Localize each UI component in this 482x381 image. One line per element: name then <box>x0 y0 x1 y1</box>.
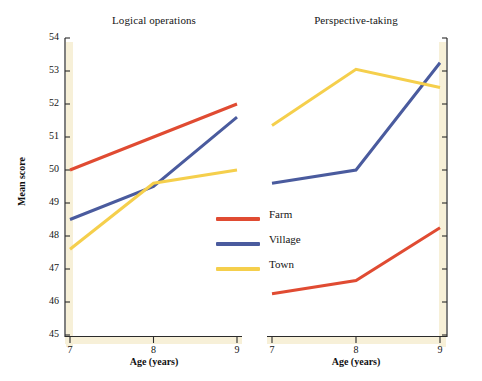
legend-item-village[interactable]: Village <box>216 233 328 258</box>
legend-swatch-village <box>216 242 260 246</box>
legend-item-town[interactable]: Town <box>216 258 328 283</box>
x-tick-label-0-7: 7 <box>62 344 78 355</box>
legend-item-farm[interactable]: Farm <box>216 208 328 233</box>
plot-canvas <box>0 0 482 381</box>
figure-panel-chart: Logical operations Perspective-taking Me… <box>0 0 482 381</box>
y-tick-label-52: 52 <box>37 97 59 108</box>
x-tick-label-0-9: 9 <box>229 344 245 355</box>
x-tick-label-1-9: 9 <box>432 344 448 355</box>
x-tick-label-1-7: 7 <box>264 344 280 355</box>
legend-label-town: Town <box>269 258 294 270</box>
y-tick-label-53: 53 <box>37 64 59 75</box>
series-line-village-panel-0 <box>70 117 237 219</box>
y-tick-label-54: 54 <box>37 31 59 42</box>
legend-swatch-farm <box>216 217 260 221</box>
chart-legend: FarmVillageTown <box>216 208 328 283</box>
series-line-town-panel-1 <box>272 69 440 125</box>
y-tick-label-51: 51 <box>37 130 59 141</box>
x-tick-label-0-8: 8 <box>146 344 162 355</box>
x-tick-label-1-8: 8 <box>348 344 364 355</box>
y-tick-label-47: 47 <box>37 262 59 273</box>
y-tick-label-46: 46 <box>37 295 59 306</box>
y-tick-label-48: 48 <box>37 229 59 240</box>
legend-swatch-town <box>216 267 260 271</box>
y-axis-shadow-band-0 <box>66 42 73 347</box>
y-tick-label-49: 49 <box>37 196 59 207</box>
y-tick-label-50: 50 <box>37 163 59 174</box>
legend-label-village: Village <box>269 233 301 245</box>
y-axis-shadow-band-1 <box>439 42 446 347</box>
legend-label-farm: Farm <box>269 208 292 220</box>
y-tick-label-45: 45 <box>37 328 59 339</box>
